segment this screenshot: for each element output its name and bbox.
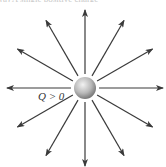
field-line-arrow xyxy=(92,100,124,155)
field-line-diagram xyxy=(0,0,166,167)
field-line-arrow xyxy=(17,49,72,81)
field-line-arrow xyxy=(92,20,124,75)
charge-label: Q > 0 xyxy=(38,90,64,102)
field-line-arrow xyxy=(46,100,78,155)
field-line-arrow xyxy=(97,95,152,127)
positive-charge-sphere xyxy=(74,77,96,99)
